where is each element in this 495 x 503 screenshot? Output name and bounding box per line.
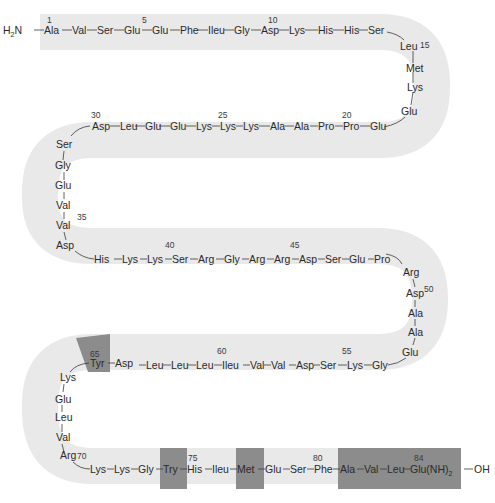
- residue-71: Lys: [90, 463, 106, 475]
- residue-19: Glu: [370, 120, 387, 132]
- residue-81: Ala: [340, 463, 355, 475]
- residue-44: Arg: [274, 253, 291, 265]
- position-30: 30: [91, 110, 101, 120]
- residue-80: Phe: [314, 463, 333, 475]
- residue-33: Glu: [55, 179, 72, 191]
- residue-6: Phe: [180, 24, 199, 36]
- residue-83: Leu: [387, 463, 405, 475]
- n-terminus: H2N: [3, 24, 22, 38]
- residue-40: Ser: [172, 253, 189, 265]
- position-84: 84: [414, 453, 424, 463]
- residue-60: Ileu: [222, 359, 239, 371]
- residue-70: Arg: [60, 449, 77, 461]
- residue-36: Asp: [56, 239, 74, 251]
- residue-62: Leu: [171, 359, 189, 371]
- residue-66: Lys: [60, 371, 76, 383]
- residue-28: Glu: [145, 120, 162, 132]
- position-1: 1: [47, 15, 52, 25]
- residue-75: His: [187, 463, 202, 475]
- position-20: 20: [342, 110, 352, 120]
- residue-4: Glu: [124, 24, 141, 36]
- residue-16: Met: [406, 62, 424, 74]
- residue-59: Val: [250, 359, 264, 371]
- residue-78: Glu: [265, 463, 282, 475]
- row-5-residues: Lys Lys Gly Try His Ileu Met Glu Ser Phe…: [90, 463, 453, 477]
- position-35: 35: [77, 212, 87, 222]
- residue-14: Leu: [400, 40, 418, 52]
- residue-57: Asp: [296, 359, 314, 371]
- residue-32: Gly: [55, 159, 72, 171]
- residue-54: Gly: [372, 359, 389, 371]
- c-terminus: OH: [474, 463, 490, 475]
- residue-55: Lys: [347, 359, 363, 371]
- residue-61: Leu: [196, 359, 214, 371]
- position-70: 70: [77, 451, 87, 461]
- position-75: 75: [188, 453, 198, 463]
- residue-3: Ser: [97, 24, 114, 36]
- residue-7: Ileu: [208, 24, 225, 36]
- residue-50: Asp: [406, 287, 424, 299]
- residue-53: Glu: [402, 346, 419, 358]
- residue-11: His: [318, 24, 333, 36]
- residue-84: Glu(NH)2: [410, 463, 453, 477]
- residue-18: Glu: [401, 105, 418, 117]
- residue-47: Glu: [349, 253, 366, 265]
- residue-56: Ser: [320, 359, 337, 371]
- residue-27: Glu: [170, 120, 187, 132]
- residue-34: Val: [56, 199, 70, 211]
- residue-10: Lys: [289, 24, 305, 36]
- residue-76: Ileu: [212, 463, 229, 475]
- residue-46: Ser: [325, 253, 342, 265]
- residue-38: Lys: [122, 253, 138, 265]
- residue-35: Val: [56, 219, 70, 231]
- residue-58: Val: [271, 359, 285, 371]
- residue-52: Ala: [408, 326, 423, 338]
- position-10: 10: [268, 15, 278, 25]
- residue-1: Ala: [44, 24, 59, 36]
- position-15: 15: [420, 40, 430, 50]
- residue-21: Pro: [318, 120, 335, 132]
- position-80: 80: [313, 453, 323, 463]
- residue-20: Pro: [343, 120, 360, 132]
- residue-24: Lys: [243, 120, 259, 132]
- residue-82: Val: [364, 463, 378, 475]
- residue-26: Lys: [196, 120, 212, 132]
- residue-49: Arg: [403, 266, 420, 278]
- residue-17: Lys: [407, 81, 423, 93]
- residue-63: Leu: [146, 359, 164, 371]
- residue-2: Val: [72, 24, 86, 36]
- residue-73: Gly: [138, 463, 155, 475]
- residue-25: Lys: [220, 120, 236, 132]
- residue-39: Lys: [147, 253, 163, 265]
- residue-51: Ala: [408, 307, 423, 319]
- residue-67: Glu: [55, 393, 72, 405]
- ribbon-background: [40, 14, 460, 466]
- position-25: 25: [218, 110, 228, 120]
- residue-79: Ser: [290, 463, 307, 475]
- residue-13: Ser: [368, 24, 385, 36]
- residue-43: Arg: [249, 253, 266, 265]
- residue-69: Val: [56, 431, 70, 443]
- residue-74: Try: [163, 463, 179, 475]
- position-40: 40: [165, 240, 175, 250]
- residue-22: Ala: [294, 120, 309, 132]
- residue-30: Asp: [92, 120, 110, 132]
- residue-42: Gly: [224, 253, 241, 265]
- residue-23: Ala: [270, 120, 285, 132]
- position-50: 50: [424, 284, 434, 294]
- residue-72: Lys: [114, 463, 130, 475]
- residue-12: His: [344, 24, 359, 36]
- residue-37: His: [94, 253, 109, 265]
- residue-68: Leu: [55, 411, 73, 423]
- residue-77: Met: [237, 463, 255, 475]
- residue-8: Gly: [234, 24, 251, 36]
- residue-64: Asp: [115, 357, 133, 369]
- peptide-sequence-diagram: H2N OH Ala Val Ser Glu Glu Phe Ileu Gly …: [0, 0, 495, 503]
- residue-65: Tyr: [90, 357, 105, 369]
- residue-45: Asp: [299, 253, 317, 265]
- position-60: 60: [217, 346, 227, 356]
- residue-29: Leu: [120, 120, 138, 132]
- residue-48: Pro: [374, 253, 391, 265]
- position-55: 55: [342, 346, 352, 356]
- residue-41: Arg: [198, 253, 215, 265]
